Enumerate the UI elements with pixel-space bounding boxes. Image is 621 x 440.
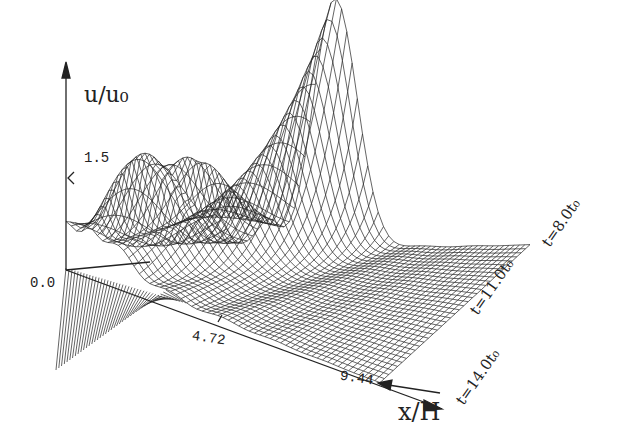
y-axis-arrow-icon xyxy=(62,62,70,78)
y-tick-0-0: 0.0 xyxy=(30,275,55,291)
y-tick-1-5-marker xyxy=(68,172,74,184)
surface-plot xyxy=(0,0,621,440)
y-tick-1-5: 1.5 xyxy=(84,150,109,166)
t-axis-baseline xyxy=(66,262,150,270)
y-axis-label: u/u₀ xyxy=(84,82,129,107)
t14-pointer-arrow-icon xyxy=(378,380,392,390)
x-axis-line xyxy=(66,270,440,408)
x-axis-label: x/H xyxy=(398,398,441,426)
wireframe-mesh xyxy=(56,0,530,383)
